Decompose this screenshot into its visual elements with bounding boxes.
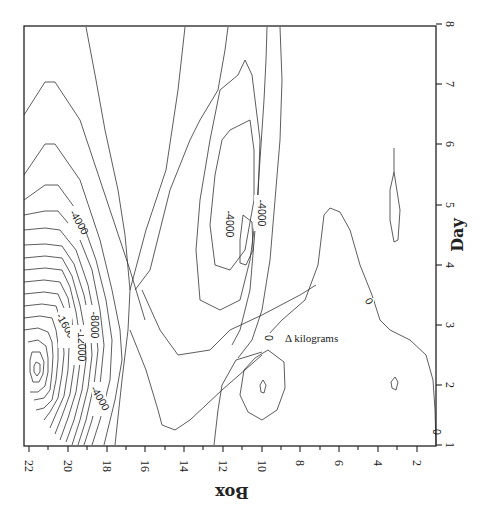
day-axis-label: Day	[448, 218, 467, 252]
box-axis-label: Box	[215, 483, 249, 502]
box-tick-6: 6	[332, 460, 346, 466]
contour-lines-right	[214, 148, 436, 445]
box-axis: 22 20 18 16 14 12 10 8 6 4 2 Box	[22, 446, 424, 502]
contour-label-zero-c: 0	[431, 429, 443, 435]
day-tick-4: 4	[443, 262, 457, 268]
contour-lines-deep-well	[24, 82, 145, 445]
day-tick-5: 5	[443, 202, 457, 208]
box-tick-8: 8	[293, 460, 307, 466]
box-tick-20: 20	[61, 460, 75, 472]
box-tick-22: 22	[22, 460, 36, 472]
day-tick-8: 8	[443, 21, 457, 27]
box-tick-12: 12	[216, 460, 230, 472]
day-tick-6: 6	[443, 141, 457, 147]
day-tick-7: 7	[443, 81, 457, 87]
contour-label-m4000-d: -4000	[256, 200, 268, 227]
box-tick-14: 14	[177, 460, 191, 472]
box-tick-2: 2	[410, 460, 424, 466]
day-axis: 1 2 3 4 5 6 7 8 Day	[436, 21, 467, 448]
box-tick-18: 18	[100, 460, 114, 472]
box-tick-16: 16	[138, 460, 152, 472]
day-tick-1: 1	[443, 442, 457, 448]
contour-label-m4000-c: -4000	[224, 211, 236, 238]
box-tick-10: 10	[255, 460, 269, 472]
day-tick-2: 2	[443, 382, 457, 388]
contour-label-m8000: -8000	[89, 312, 101, 339]
contour-chart: -16000 -12000 -8000 -4000 -4000 -4000 -4…	[0, 0, 499, 507]
contour-lines-secondary-well	[196, 27, 282, 358]
contour-label-zero-a: 0	[263, 335, 275, 341]
day-tick-3: 3	[443, 322, 457, 328]
box-tick-4: 4	[371, 460, 385, 466]
units-annotation: Δ kilograms	[285, 332, 338, 344]
